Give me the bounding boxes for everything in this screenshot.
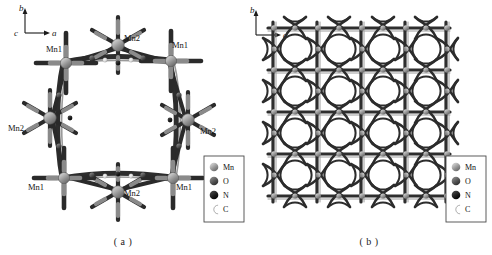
legend-label-o: O xyxy=(223,177,229,186)
legend-label-n: N xyxy=(465,191,471,200)
panel-a-caption: ( a ) xyxy=(0,236,246,247)
panel-b-structure-diagram: b a xyxy=(246,0,492,255)
extended-framework-lattice xyxy=(263,17,458,207)
legend-label-n: N xyxy=(223,191,229,200)
legend-label-c: C xyxy=(223,205,228,214)
axis-label-a: a xyxy=(52,28,57,38)
legend-swatch-mn xyxy=(210,163,219,172)
site-label-mn2: Mn2 xyxy=(200,126,216,136)
panel-b: b a xyxy=(246,0,492,255)
mn1-site-node xyxy=(34,148,94,208)
site-label-mn1: Mn1 xyxy=(176,182,192,192)
panel-a: b a c xyxy=(0,0,246,255)
axis-label-c: c xyxy=(14,28,18,38)
axis-label-b: b xyxy=(250,5,255,15)
axis-indicator-a: b a c xyxy=(14,3,57,38)
legend-swatch-n xyxy=(210,191,219,200)
axis-label-b: b xyxy=(19,3,24,13)
site-label-mn1: Mn1 xyxy=(46,44,62,54)
legend-label-mn: Mn xyxy=(223,163,234,172)
legend-swatch-o xyxy=(452,177,461,186)
legend-swatch-mn xyxy=(452,163,461,172)
legend-swatch-n xyxy=(452,191,461,200)
site-label-mn2: Mn2 xyxy=(8,123,24,133)
mn1-site-node xyxy=(141,31,201,91)
crystal-structure-figure: b a c xyxy=(0,0,492,255)
legend-label-c: C xyxy=(465,205,470,214)
panel-b-caption: ( b ) xyxy=(246,236,492,247)
site-label-mn2: Mn2 xyxy=(124,33,140,43)
legend-label-o: O xyxy=(465,177,471,186)
site-label-mn1: Mn1 xyxy=(172,40,188,50)
legend-label-mn: Mn xyxy=(465,163,476,172)
legend-swatch-o xyxy=(210,177,219,186)
legend-b: Mn O N C xyxy=(446,156,486,222)
mn1-site-node xyxy=(36,33,96,93)
axis-indicator-b: b a xyxy=(250,5,288,40)
legend-a: Mn O N C xyxy=(204,156,244,222)
site-label-mn2: Mn2 xyxy=(124,188,140,198)
mn1-site-node xyxy=(143,148,203,208)
panel-a-structure-diagram: b a c xyxy=(0,0,246,255)
site-label-mn1: Mn1 xyxy=(28,182,44,192)
